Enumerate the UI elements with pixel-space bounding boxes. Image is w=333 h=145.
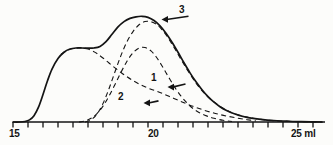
peak-1-label: 1 (151, 72, 157, 83)
curves-group (13, 16, 322, 122)
peak-3-label: 3 (179, 4, 185, 15)
annotation-arrowhead-icon (144, 100, 151, 107)
annotation-leader-line (167, 16, 189, 19)
x-axis-label-15: 15 (9, 128, 20, 139)
annotation-leaders (144, 16, 189, 106)
total-curve (13, 16, 322, 122)
annotation-arrowhead-icon (162, 16, 169, 23)
chromatogram-figure: 15 20 25 ml 1 2 3 (0, 0, 333, 145)
component-2-curve (79, 47, 232, 122)
elution-profile-plot (0, 0, 333, 145)
peak-2-label: 2 (118, 91, 124, 102)
axis-group (13, 122, 325, 128)
x-axis-ticks (13, 122, 313, 128)
x-axis-label-20: 20 (148, 128, 159, 139)
annotation-arrowhead-icon (168, 84, 175, 91)
x-axis-label-25-ml: 25 ml (291, 128, 316, 139)
annotation-leader-line (173, 84, 186, 87)
